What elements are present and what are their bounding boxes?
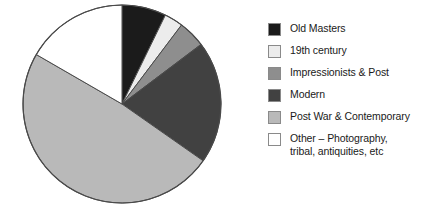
legend-swatch-icon (268, 111, 281, 124)
legend-item-label: Post War & Contemporary (290, 110, 410, 123)
legend-swatch-icon (268, 89, 281, 102)
legend-swatch-icon (268, 45, 281, 58)
legend-item-label: Impressionists & Post (290, 66, 389, 79)
pie-chart-area (0, 0, 240, 210)
legend-item[interactable]: Modern (268, 88, 430, 102)
pie-chart-svg (0, 0, 240, 210)
legend-item[interactable]: Old Masters (268, 22, 430, 36)
legend-swatch-icon (268, 67, 281, 80)
legend-item-label: Modern (290, 88, 325, 101)
legend-item[interactable]: Other – Photography, tribal, antiquities… (268, 132, 430, 157)
chart-legend: Old Masters19th centuryImpressionists & … (268, 22, 430, 165)
pie-chart-figure: Old Masters19th centuryImpressionists & … (0, 0, 430, 210)
legend-item[interactable]: Impressionists & Post (268, 66, 430, 80)
legend-swatch-icon (268, 23, 281, 36)
legend-item-label: Old Masters (290, 22, 346, 35)
legend-item[interactable]: Post War & Contemporary (268, 110, 430, 124)
legend-item[interactable]: 19th century (268, 44, 430, 58)
legend-swatch-icon (268, 133, 281, 146)
legend-item-label: 19th century (290, 44, 347, 57)
legend-item-label: Other – Photography, tribal, antiquities… (290, 132, 388, 157)
